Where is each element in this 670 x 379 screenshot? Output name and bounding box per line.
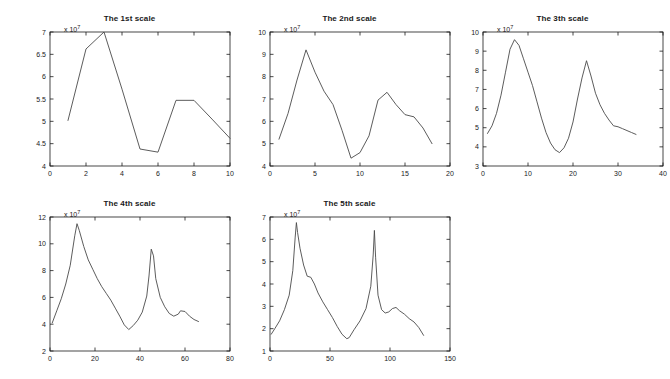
subplot-5: The 5th scale x 107 1234567050100150 xyxy=(242,199,457,375)
y-tick-label: 4 xyxy=(42,321,46,328)
x-tick-label: 20 xyxy=(569,170,577,177)
y-tick-label: 7 xyxy=(262,96,266,103)
y-tick-label: 6 xyxy=(262,236,266,243)
data-series-line xyxy=(271,223,423,339)
x-tick-label: 50 xyxy=(326,355,334,362)
x-tick-label: 100 xyxy=(384,355,396,362)
x-tick-label: 40 xyxy=(659,170,667,177)
subplot-1-axes: 44.555.566.570246810 xyxy=(22,14,237,190)
x-tick-label: 10 xyxy=(356,170,364,177)
data-series-line xyxy=(68,32,230,152)
y-tick-label: 8 xyxy=(42,267,46,274)
y-tick-label: 8 xyxy=(262,73,266,80)
data-series-line xyxy=(279,50,432,158)
x-tick-label: 0 xyxy=(268,355,272,362)
x-tick-label: 4 xyxy=(120,170,124,177)
x-tick-label: 5 xyxy=(313,170,317,177)
y-tick-label: 6.5 xyxy=(36,51,46,58)
y-tick-label: 5 xyxy=(475,124,479,131)
y-tick-label: 4 xyxy=(262,281,266,288)
y-tick-label: 5 xyxy=(262,258,266,265)
y-tick-label: 12 xyxy=(38,214,46,221)
y-tick-label: 2 xyxy=(262,325,266,332)
y-tick-label: 2 xyxy=(42,348,46,355)
x-tick-label: 2 xyxy=(84,170,88,177)
subplot-3-axes: 345678910010203040 xyxy=(455,14,670,190)
subplot-2-axes: 4567891005101520 xyxy=(242,14,457,190)
subplot-5-axes: 1234567050100150 xyxy=(242,199,457,375)
subplot-2: The 2nd scale x 107 4567891005101520 xyxy=(242,14,457,190)
x-tick-label: 30 xyxy=(614,170,622,177)
subplot-1: The 1st scale x 107 44.555.566.570246810 xyxy=(22,14,237,190)
y-tick-label: 8 xyxy=(475,67,479,74)
y-tick-label: 6 xyxy=(262,118,266,125)
x-tick-label: 10 xyxy=(226,170,234,177)
x-tick-label: 0 xyxy=(481,170,485,177)
y-tick-label: 5 xyxy=(262,140,266,147)
matlab-figure: The 1st scale x 107 44.555.566.570246810… xyxy=(0,0,670,379)
y-tick-label: 7 xyxy=(42,29,46,36)
subplot-4: The 4th scale x 107 24681012020406080 xyxy=(22,199,237,375)
y-tick-label: 6 xyxy=(42,294,46,301)
y-tick-label: 4 xyxy=(475,143,479,150)
subplot-3: The 3th scale x 107 345678910010203040 xyxy=(455,14,670,190)
x-tick-label: 40 xyxy=(136,355,144,362)
x-tick-label: 8 xyxy=(192,170,196,177)
data-series-line xyxy=(488,40,637,153)
x-tick-label: 80 xyxy=(226,355,234,362)
x-tick-label: 0 xyxy=(48,170,52,177)
x-tick-label: 10 xyxy=(524,170,532,177)
y-tick-label: 6 xyxy=(42,73,46,80)
y-tick-label: 6 xyxy=(475,105,479,112)
y-tick-label: 4 xyxy=(262,163,266,170)
x-tick-label: 0 xyxy=(268,170,272,177)
y-tick-label: 1 xyxy=(262,348,266,355)
data-series-line xyxy=(52,224,198,330)
y-tick-label: 10 xyxy=(258,29,266,36)
x-tick-label: 0 xyxy=(48,355,52,362)
y-tick-label: 4.5 xyxy=(36,140,46,147)
y-tick-label: 10 xyxy=(38,240,46,247)
x-tick-label: 150 xyxy=(444,355,456,362)
y-tick-label: 7 xyxy=(475,86,479,93)
x-tick-label: 60 xyxy=(181,355,189,362)
y-tick-label: 10 xyxy=(471,29,479,36)
y-tick-label: 7 xyxy=(262,214,266,221)
y-tick-label: 5.5 xyxy=(36,96,46,103)
y-tick-label: 3 xyxy=(262,303,266,310)
x-tick-label: 6 xyxy=(156,170,160,177)
y-tick-label: 9 xyxy=(262,51,266,58)
y-tick-label: 4 xyxy=(42,163,46,170)
y-tick-label: 3 xyxy=(475,163,479,170)
subplot-4-axes: 24681012020406080 xyxy=(22,199,237,375)
y-tick-label: 5 xyxy=(42,118,46,125)
x-tick-label: 15 xyxy=(401,170,409,177)
x-tick-label: 20 xyxy=(446,170,454,177)
x-tick-label: 20 xyxy=(91,355,99,362)
y-tick-label: 9 xyxy=(475,48,479,55)
